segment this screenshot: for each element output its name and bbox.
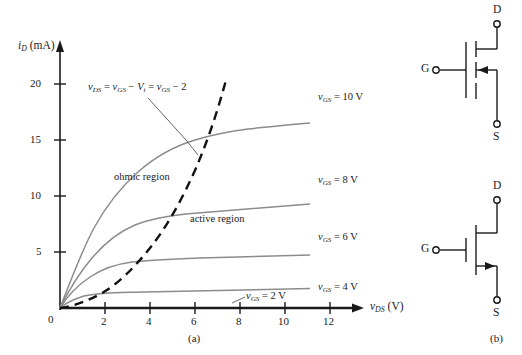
x-tick-8: 8 [236, 316, 242, 327]
active-region-label: active region [190, 214, 245, 225]
curve-vgs-10v [60, 123, 310, 308]
curve-2-value: = 6 V [331, 231, 357, 242]
y-axis-label: iD (mA) [18, 40, 55, 53]
curve-label-vgs-4v: vGS = 4 V [318, 282, 358, 294]
y-tick-15: 15 [30, 134, 41, 145]
curve-label-vgs-8v: vGS = 8 V [318, 175, 358, 187]
ohmic-region-label: ohmic region [114, 172, 170, 183]
x-axis-label: vDS (V) [370, 301, 404, 314]
x-axis-unit: (V) [388, 300, 404, 312]
y-axis-unit: (mA) [30, 39, 55, 51]
curve-1-value: = 8 V [331, 174, 357, 185]
curve-label-vgs-6v: vGS = 6 V [318, 232, 358, 244]
caption-a: (a) [188, 333, 200, 344]
vgs-2v-leader-line [232, 297, 245, 303]
bottom-symbol-gate-label: G [421, 243, 429, 255]
equation-leader-line [148, 98, 186, 140]
eq-minus-2: − 2 [170, 81, 186, 92]
top-symbol-source-label: S [493, 131, 499, 143]
curve-label-vgs-2v: vGS = 2 V [246, 291, 286, 303]
y-tick-10: 10 [30, 190, 41, 201]
curve-0-value: = 10 V [331, 91, 363, 102]
equation-leader-line-2 [186, 140, 198, 155]
x-tick-6: 6 [191, 316, 197, 327]
mosfet-symbol-bottom [433, 197, 500, 303]
caption-b: (b) [490, 333, 503, 344]
x-tick-12: 12 [323, 316, 334, 327]
origin-label: 0 [48, 314, 54, 325]
x-axis [60, 302, 364, 314]
curve-label-vgs-10v: vGS = 10 V [318, 92, 363, 104]
x-tick-4: 4 [146, 316, 152, 327]
y-axis-subscript: D [21, 44, 27, 53]
x-axis-subscript: DS [375, 305, 385, 314]
mosfet-symbol-top [433, 21, 500, 127]
curve-3-value: = 4 V [331, 281, 357, 292]
top-symbol-gate-label: G [421, 63, 429, 75]
bottom-symbol-source-label: S [493, 307, 499, 319]
x-tick-10: 10 [278, 316, 289, 327]
bottom-symbol-drain-label: D [493, 180, 501, 192]
eq-equals-2: = [146, 81, 157, 92]
eq-equals-1: = [101, 81, 112, 92]
top-symbol-drain-label: D [493, 4, 501, 16]
y-tick-5: 5 [36, 246, 42, 257]
eq-vgs2-sub: GS [161, 86, 170, 94]
boundary-dashed-curve [60, 80, 226, 308]
x-tick-2: 2 [101, 316, 107, 327]
y-tick-20: 20 [30, 78, 41, 89]
figure-mosfet-characteristics: iD (mA) 20 15 10 5 0 2 4 6 8 10 12 vDS (… [0, 0, 522, 355]
eq-minus-1: − [126, 81, 137, 92]
eq-vgs-sub: GS [117, 86, 126, 94]
y-axis [54, 40, 66, 310]
boundary-equation: vDS = vGS − Vt = vGS − 2 [88, 82, 187, 94]
curve-4-value: = 2 V [259, 290, 285, 301]
